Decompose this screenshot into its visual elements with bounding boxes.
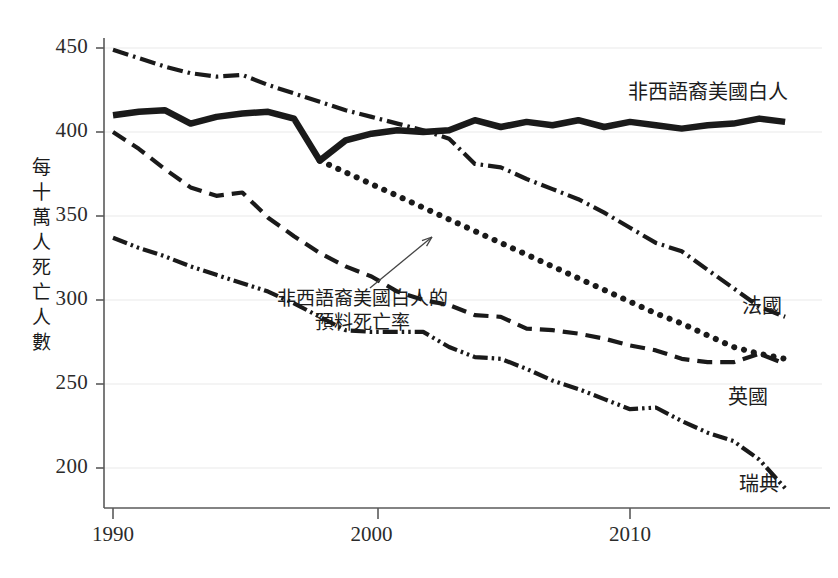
series-label-2: 英國 <box>728 381 768 410</box>
series-layer <box>113 50 785 489</box>
series-line-0 <box>113 110 785 160</box>
y-axis-ticks <box>96 48 104 468</box>
annotation-line-1: 非西語裔美國白人的 <box>277 287 448 309</box>
x-tick-label-2000: 2000 <box>322 522 422 547</box>
series-label-3: 瑞典 <box>739 468 779 497</box>
series-label-0: 非西語裔美國白人 <box>628 76 788 105</box>
x-axis-ticks <box>113 508 630 519</box>
series-line-3 <box>113 238 785 488</box>
x-tick-label-2010: 2010 <box>580 522 680 547</box>
y-tick-label-450: 450 <box>30 34 88 59</box>
annotation-label: 非西語裔美國白人的 預料死亡率 <box>277 286 448 334</box>
y-tick-label-350: 350 <box>30 202 88 227</box>
annotation-line-2: 預料死亡率 <box>277 310 448 334</box>
y-tick-label-250: 250 <box>30 370 88 395</box>
x-tick-label-1990: 1990 <box>63 522 163 547</box>
series-line-2 <box>113 132 785 364</box>
mortality-line-chart: 每十萬人死亡人數 非西語裔美國白人法國英國瑞典20025030035040045… <box>0 0 838 578</box>
annotation-arrow <box>370 237 432 288</box>
y-tick-label-400: 400 <box>30 118 88 143</box>
y-tick-label-300: 300 <box>30 286 88 311</box>
gridlines <box>104 48 822 468</box>
series-label-1: 法國 <box>742 290 782 319</box>
y-tick-label-200: 200 <box>30 454 88 479</box>
y-axis-title: 每十萬人死亡人數 <box>24 155 58 355</box>
